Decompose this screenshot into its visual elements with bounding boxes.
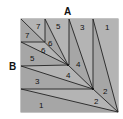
hub-point-1	[67, 64, 69, 66]
quilt-block-diagram: A B 7 7 6 6 5 5 4 4 3 3 2 2 1 1	[0, 0, 123, 119]
region-label: 2	[103, 87, 108, 96]
region-label: 6	[41, 46, 46, 55]
region-label: 5	[30, 54, 35, 63]
region-label: 2	[94, 97, 99, 106]
region-label: 7	[25, 31, 30, 40]
region-label: 1	[105, 23, 110, 32]
region-label: 5	[56, 22, 61, 31]
region-label: 3	[80, 23, 85, 32]
hub-point-2	[92, 88, 94, 90]
region-label: 4	[66, 71, 71, 80]
label-a: A	[64, 6, 71, 17]
region-label: 1	[39, 101, 44, 110]
region-label: 7	[36, 22, 41, 31]
region-label: 6	[48, 39, 53, 48]
region-label: 4	[76, 60, 81, 69]
label-b: B	[9, 61, 16, 72]
region-label: 3	[35, 77, 40, 86]
